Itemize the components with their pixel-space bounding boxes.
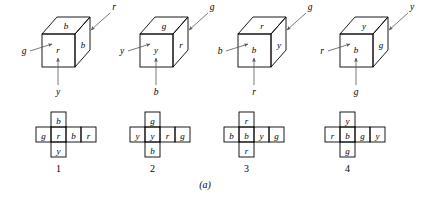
net-4-bottom-cell-label: g: [345, 146, 350, 156]
cube-1-upper-right-arrow: [91, 13, 110, 30]
net-2-row-cell-4-label: g: [180, 131, 185, 141]
cube-3-front-face-label: b: [252, 45, 257, 55]
net-2: g y y r g b 2: [130, 112, 190, 174]
net-2-bottom-cell-label: b: [150, 146, 155, 156]
net-4-row-cell-2-label: b: [345, 131, 350, 141]
net-3: r b b y g r 3: [224, 112, 284, 174]
net-3-number: 3: [244, 163, 249, 174]
cube-2-upper-right-arrow: [189, 13, 208, 30]
cube-1: b r b g r y: [22, 2, 117, 97]
net-1-top-cell-label: b: [56, 116, 61, 126]
net-4: y r b g y g 4: [325, 112, 385, 174]
cube-1-left-arrow-label: g: [22, 46, 27, 56]
net-2-row-cell-1-label: y: [135, 131, 140, 141]
cube-3-upper-right-arrow: [287, 13, 306, 30]
cube-1-top-face-label: b: [64, 21, 69, 31]
cube-1-bottom-arrow-label: y: [55, 87, 61, 97]
net-4-row-cell-4-label: y: [375, 131, 380, 141]
net-3-top-cell-label: r: [245, 116, 249, 126]
net-1-row-cell-2-label: r: [57, 131, 61, 141]
net-1-number: 1: [56, 163, 61, 174]
cube-3-bottom-arrow-label: r: [252, 87, 256, 97]
cube-1-left-arrow: [30, 44, 52, 51]
cube-3-top-face-label: r: [260, 21, 264, 31]
net-2-row-cell-3-label: r: [166, 131, 170, 141]
net-1: b g r b r y 1: [36, 112, 96, 174]
net-4-top-cell-label: y: [345, 116, 350, 126]
net-4-number: 4: [345, 163, 350, 174]
net-2-top-cell-label: g: [150, 116, 155, 126]
cube-1-upper-right-arrow-label: r: [112, 2, 116, 12]
net-1-row-cell-1-label: g: [41, 131, 46, 141]
cube-3: r b y b g r: [218, 2, 313, 97]
cube-4-top-face-label: y: [361, 21, 366, 31]
figure-caption: (a): [199, 179, 211, 191]
cube-3-left-arrow-label: b: [218, 46, 223, 56]
cube-3-left-arrow: [226, 44, 248, 51]
cube-4-bottom-arrow-label: g: [354, 87, 359, 97]
cube-4-right-face-label: g: [379, 40, 384, 50]
net-3-row-cell-3-label: y: [259, 131, 264, 141]
net-4-row-cell-3-label: g: [360, 131, 365, 141]
cube-2-right-face-label: r: [179, 40, 183, 50]
cube-3-upper-right-arrow-label: g: [308, 2, 313, 12]
cube-4-upper-right-arrow-label: y: [409, 2, 415, 12]
cube-4-left-arrow-label: r: [320, 46, 324, 56]
cube-2-upper-right-arrow-label: g: [210, 2, 215, 12]
cube-4: y b g r y g: [320, 2, 415, 97]
net-4-row-cell-1-label: r: [331, 131, 335, 141]
cube-2: g y r y g b: [119, 2, 215, 97]
net-3-row-cell-2-label: b: [244, 131, 249, 141]
net-3-bottom-cell-label: r: [245, 146, 249, 156]
net-1-row-cell-3-label: b: [71, 131, 76, 141]
cube-1-right-face-label: b: [81, 40, 86, 50]
cube-1-front-face-label: r: [56, 45, 60, 55]
cube-2-top-face-label: g: [162, 21, 167, 31]
net-1-row-cell-4-label: r: [87, 131, 91, 141]
net-1-bottom-cell-label: y: [56, 146, 61, 156]
cube-4-left-arrow: [328, 44, 350, 51]
cube-2-front-face-label: y: [153, 45, 158, 55]
net-3-row-cell-1-label: b: [229, 131, 234, 141]
net-3-row-cell-4-label: g: [274, 131, 279, 141]
cube-2-left-arrow: [128, 44, 150, 51]
cube-4-front-face-label: b: [354, 45, 359, 55]
cube-2-left-arrow-label: y: [119, 46, 125, 56]
cube-3-right-face-label: y: [276, 40, 281, 50]
cube-2-bottom-arrow-label: b: [154, 87, 159, 97]
net-2-row-cell-2-label: y: [150, 131, 155, 141]
instant-insanity-cubes-figure: b r b g r y g y r y g b r b y b: [0, 0, 435, 205]
net-2-number: 2: [150, 163, 155, 174]
cube-4-upper-right-arrow: [389, 13, 408, 30]
